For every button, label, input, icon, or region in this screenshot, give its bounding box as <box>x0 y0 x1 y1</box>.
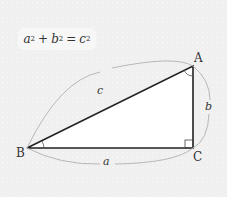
diagram-canvas: a2 + b2 = c2 A B C a b c <box>0 0 227 197</box>
arc-a-left <box>27 148 100 164</box>
side-c-label: c <box>97 84 103 97</box>
triangle-figure <box>0 0 227 197</box>
side-b-label: b <box>205 100 212 113</box>
side-a-label: a <box>103 155 110 168</box>
vertex-c-label: C <box>193 150 202 164</box>
arc-a-right <box>115 148 193 164</box>
vertex-a-label: A <box>194 51 203 65</box>
vertex-b-label: B <box>16 146 25 160</box>
arc-c-right <box>112 61 193 68</box>
arc-b-bottom <box>193 114 209 148</box>
arc-b-top <box>193 66 210 100</box>
